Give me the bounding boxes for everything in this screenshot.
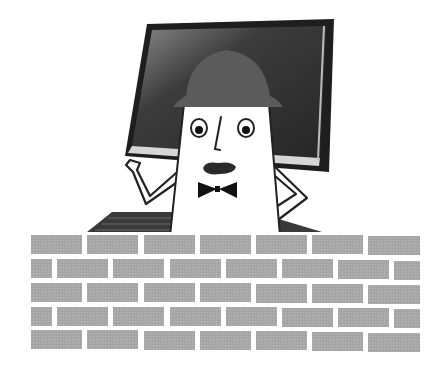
construction-character-illustration	[0, 0, 442, 380]
illustration-scene	[0, 0, 442, 380]
brick-wall	[28, 232, 422, 353]
left-eye	[191, 119, 207, 137]
right-eye	[238, 119, 254, 137]
